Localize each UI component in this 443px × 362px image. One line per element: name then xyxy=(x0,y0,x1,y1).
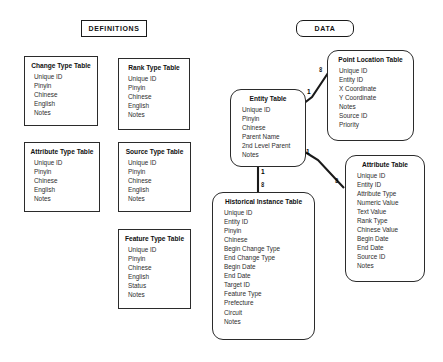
table-title: Attribute Table xyxy=(346,160,424,169)
table-title: Historical Instance Table xyxy=(213,197,314,206)
table-field: Notes xyxy=(128,110,189,119)
table-field: Unique ID xyxy=(242,105,305,114)
table-field: Notes xyxy=(242,150,305,159)
table-field: Notes xyxy=(357,261,424,270)
table-field: Pinyin xyxy=(34,167,99,176)
cardinality-entity-attribute-from: 1 xyxy=(306,148,310,155)
er-diagram-canvas: DEFINITIONS DATA Change Type Table Uniqu… xyxy=(0,0,443,362)
banner-data: DATA xyxy=(296,20,354,37)
cardinality-entity-attribute-to: ∞ xyxy=(333,178,340,183)
table-field: Begin Date xyxy=(357,234,424,243)
table-feature-type-table[interactable]: Feature Type Table Unique ID Pinyin Chin… xyxy=(118,229,191,309)
table-field: Pinyin xyxy=(128,83,189,92)
table-field: 2nd Level Parent xyxy=(242,141,305,150)
cardinality-entity-historical-instance-from: 1 xyxy=(261,168,265,175)
table-field: Unique ID xyxy=(128,74,189,83)
table-title: Feature Type Table xyxy=(119,234,190,243)
cardinality-entity-historical-instance-to: ∞ xyxy=(259,182,266,187)
table-field: Notes xyxy=(34,108,97,117)
table-rank-type-table[interactable]: Rank Type Table Unique ID Pinyin Chinese… xyxy=(118,58,190,130)
table-field: Chinese Value xyxy=(357,225,424,234)
table-field: Source ID xyxy=(357,252,424,261)
table-fields: Unique ID Entity ID Pinyin Chinese Begin… xyxy=(213,208,314,326)
banner-definitions-label: DEFINITIONS xyxy=(89,25,140,32)
table-field: End Date xyxy=(224,271,314,280)
table-entity-table[interactable]: Entity Table Unique ID Pinyin Chinese Pa… xyxy=(230,89,306,167)
table-fields: Unique ID Pinyin Chinese English Notes xyxy=(119,74,189,119)
table-title: Change Type Table xyxy=(25,61,97,70)
table-fields: Unique ID Pinyin Chinese Parent Name 2nd… xyxy=(231,105,305,160)
table-field: Pinyin xyxy=(34,81,97,90)
table-field: Unique ID xyxy=(128,158,190,167)
table-field: Entity ID xyxy=(339,75,413,84)
table-field: Pinyin xyxy=(224,226,314,235)
table-fields: Unique ID Pinyin Chinese English Notes xyxy=(25,72,97,117)
table-field: X Coordinate xyxy=(339,84,413,93)
table-attribute-type-table[interactable]: Attribute Type Table Unique ID Pinyin Ch… xyxy=(24,142,100,212)
table-fields: Unique ID Pinyin Chinese English Notes xyxy=(119,158,190,203)
table-field: Unique ID xyxy=(339,66,413,75)
table-field: Unique ID xyxy=(357,171,424,180)
table-field: Entity ID xyxy=(357,180,424,189)
table-field: Unique ID xyxy=(128,245,190,254)
table-field: Target ID xyxy=(224,280,314,289)
table-field: Unique ID xyxy=(34,72,97,81)
banner-data-label: DATA xyxy=(315,25,336,32)
table-point-location-table[interactable]: Point Location Table Unique ID Entity ID… xyxy=(327,50,414,141)
table-field: Numeric Value xyxy=(357,198,424,207)
banner-definitions: DEFINITIONS xyxy=(81,20,147,37)
table-fields: Unique ID Entity ID X Coordinate Y Coord… xyxy=(328,66,413,130)
table-field: Notes xyxy=(339,102,413,111)
table-field: Parent Name xyxy=(242,132,305,141)
table-attribute-table[interactable]: Attribute Table Unique ID Entity ID Attr… xyxy=(345,155,425,282)
table-fields: Unique ID Pinyin Chinese English Status … xyxy=(119,245,190,300)
table-field: End Date xyxy=(357,243,424,252)
table-fields: Unique ID Pinyin Chinese English Notes xyxy=(25,158,99,203)
table-field: Notes xyxy=(224,317,314,326)
table-field: Rank Type xyxy=(357,216,424,225)
table-field: Chinese xyxy=(128,263,190,272)
table-title: Rank Type Table xyxy=(119,63,189,72)
table-field: Source ID xyxy=(339,111,413,120)
table-title: Attribute Type Table xyxy=(25,147,99,156)
table-field: Entity ID xyxy=(224,217,314,226)
table-field: English xyxy=(34,185,99,194)
cardinality-entity-point-location-from: 1 xyxy=(307,88,311,95)
table-title: Source Type Table xyxy=(119,147,190,156)
table-field: Notes xyxy=(128,290,190,299)
table-source-type-table[interactable]: Source Type Table Unique ID Pinyin Chine… xyxy=(118,142,191,212)
table-field: Unique ID xyxy=(34,158,99,167)
table-field: Y Coordinate xyxy=(339,93,413,102)
table-field: English xyxy=(128,185,190,194)
table-field: Pinyin xyxy=(128,254,190,263)
table-field: Chinese xyxy=(34,90,97,99)
table-field: English xyxy=(128,272,190,281)
table-field: Chinese xyxy=(128,92,189,101)
table-field: Begin Change Type xyxy=(224,244,314,253)
table-field: Chinese xyxy=(224,235,314,244)
table-field: Notes xyxy=(128,194,190,203)
connector-entity-point-location xyxy=(303,70,330,104)
table-field: Chinese xyxy=(242,123,305,132)
table-historical-instance-table[interactable]: Historical Instance Table Unique ID Enti… xyxy=(212,192,315,340)
table-field: English xyxy=(128,101,189,110)
table-field: Chinese xyxy=(128,176,190,185)
table-title: Entity Table xyxy=(231,94,305,103)
table-field: Text Value xyxy=(357,207,424,216)
table-field: Circuit xyxy=(224,308,314,317)
table-fields: Unique ID Entity ID Attribute Type Numer… xyxy=(346,171,424,271)
table-field: English xyxy=(34,99,97,108)
table-field: Unique ID xyxy=(224,208,314,217)
table-field: Status xyxy=(128,281,190,290)
table-field: Chinese xyxy=(34,176,99,185)
table-field: Prefecture xyxy=(224,298,314,307)
table-field: Feature Type xyxy=(224,289,314,298)
table-field: End Change Type xyxy=(224,253,314,262)
table-field: Attribute Type xyxy=(357,189,424,198)
table-field: Pinyin xyxy=(128,167,190,176)
table-field: Begin Date xyxy=(224,262,314,271)
table-field: Pinyin xyxy=(242,114,305,123)
table-change-type-table[interactable]: Change Type Table Unique ID Pinyin Chine… xyxy=(24,56,98,126)
table-field: Notes xyxy=(34,194,99,203)
table-field: Priority xyxy=(339,120,413,129)
